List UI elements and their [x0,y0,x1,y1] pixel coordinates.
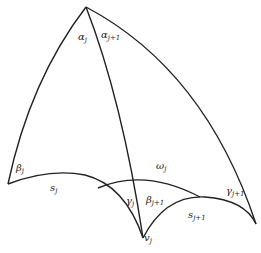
label-omega-j: ωj [156,161,166,173]
arc-s-j [8,173,143,238]
label-beta-j1: βj+1 [146,195,164,207]
label-beta-j: βj [16,163,24,175]
label-gamma-j1: γj+1 [226,186,244,198]
label-alpha-j1: αj+1 [101,30,120,42]
edge-left [8,7,86,184]
diagram-canvas [0,0,261,253]
label-s-j1: sj+1 [188,210,206,222]
label-alpha-j: αj [78,32,87,44]
label-v-j: vj [144,233,152,245]
label-gamma-j: γj [126,196,134,208]
label-s-j: sj [50,183,57,195]
